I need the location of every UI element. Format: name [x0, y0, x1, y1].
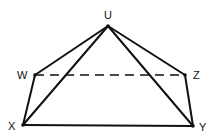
pyramid-diagram: U W Z X Y	[0, 0, 215, 139]
vertex-y	[191, 124, 195, 128]
vertex-u	[106, 24, 110, 28]
label-z: Z	[193, 69, 200, 81]
label-u: U	[104, 9, 112, 21]
label-y: Y	[199, 121, 207, 133]
label-x: X	[8, 120, 16, 132]
vertex-x	[21, 123, 25, 127]
vertex-w	[33, 73, 37, 77]
edge-x-y	[23, 125, 193, 126]
vertex-z	[183, 73, 187, 77]
edge-u-y	[108, 26, 193, 126]
edge-u-z	[108, 26, 185, 75]
label-w: W	[17, 69, 28, 81]
